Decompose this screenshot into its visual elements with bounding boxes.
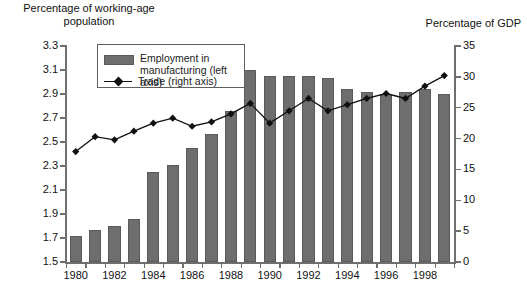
- trade-data-point-marker: [92, 133, 99, 140]
- bar: [147, 172, 159, 262]
- bar: [264, 76, 276, 262]
- left-axis-tick: [60, 213, 65, 214]
- legend-line-marker-icon: [104, 76, 132, 86]
- bar: [167, 165, 179, 262]
- left-axis-caption: Percentage of working-age population: [4, 2, 174, 28]
- bar: [361, 92, 373, 262]
- right-axis-tick: [456, 261, 461, 262]
- left-axis-tick-label: 2.5: [43, 135, 58, 147]
- bar: [89, 230, 101, 262]
- x-axis-tick: [260, 263, 261, 268]
- right-axis-tick-label: 5: [463, 224, 469, 236]
- trade-data-point-marker: [150, 120, 157, 127]
- x-axis-tick: [85, 263, 86, 268]
- left-axis-tick-label: 3.3: [43, 39, 58, 51]
- trade-data-point-marker: [72, 148, 79, 155]
- right-axis-tick-label: 15: [463, 162, 475, 174]
- x-axis-tick: [338, 263, 339, 268]
- right-axis-tick: [456, 169, 461, 170]
- left-axis-tick-label: 3.1: [43, 63, 58, 75]
- chart-legend: Employment in manufacturing (left axis) …: [97, 44, 245, 88]
- x-axis-tick: [435, 263, 436, 268]
- left-axis-tick: [60, 189, 65, 190]
- right-axis-tick-label: 20: [463, 132, 475, 144]
- right-axis-tick: [456, 107, 461, 108]
- x-axis-tick: [396, 263, 397, 268]
- x-axis-tick: [163, 263, 164, 268]
- bar: [419, 89, 431, 262]
- x-axis-tick: [357, 263, 358, 268]
- left-axis-tick: [60, 93, 65, 94]
- trade-data-point-marker: [189, 123, 196, 130]
- right-axis-tick: [456, 76, 461, 77]
- left-axis-tick: [60, 117, 65, 118]
- right-axis-tick-label: 10: [463, 193, 475, 205]
- left-axis-tick: [60, 165, 65, 166]
- left-axis-tick-label: 2.9: [43, 87, 58, 99]
- right-axis-caption: Percentage of GDP: [426, 17, 521, 30]
- right-axis-tick-label: 30: [463, 70, 475, 82]
- x-axis-tick: [299, 263, 300, 268]
- left-axis-tick-label: 1.7: [43, 231, 58, 243]
- x-axis-tick-label: 1998: [402, 269, 448, 281]
- left-axis-line: [65, 45, 67, 263]
- right-axis-tick: [456, 45, 461, 46]
- right-axis-tick-label: 35: [463, 39, 475, 51]
- bar: [322, 78, 334, 262]
- left-axis-tick-label: 2.7: [43, 111, 58, 123]
- x-axis-tick: [376, 263, 377, 268]
- legend-bar-swatch: [104, 55, 134, 65]
- x-axis-tick: [415, 263, 416, 268]
- right-axis-tick: [456, 230, 461, 231]
- bar: [225, 111, 237, 262]
- bar: [108, 226, 120, 262]
- bar: [380, 94, 392, 262]
- x-axis-tick: [144, 263, 145, 268]
- bar: [70, 236, 82, 262]
- x-axis-tick: [66, 263, 67, 268]
- x-axis-tick: [182, 263, 183, 268]
- trade-data-point-marker: [130, 128, 137, 135]
- left-axis-tick: [60, 141, 65, 142]
- trade-data-point-marker: [441, 72, 448, 79]
- x-axis-tick: [454, 263, 455, 268]
- x-axis-tick: [221, 263, 222, 268]
- left-axis-tick-label: 1.9: [43, 207, 58, 219]
- left-axis-tick-label: 2.1: [43, 183, 58, 195]
- trade-data-point-marker: [169, 115, 176, 122]
- chart-figure: Percentage of working-age population Per…: [0, 0, 527, 288]
- left-axis-tick: [60, 45, 65, 46]
- x-axis-tick: [124, 263, 125, 268]
- right-axis-tick: [456, 138, 461, 139]
- trade-data-point-marker: [111, 136, 118, 143]
- x-axis-tick: [202, 263, 203, 268]
- left-axis-tick: [60, 69, 65, 70]
- legend-entry-trade: Trade (right axis): [104, 75, 217, 87]
- x-axis-tick: [318, 263, 319, 268]
- trade-data-point-marker: [208, 118, 215, 125]
- left-axis-tick-label: 1.5: [43, 255, 58, 267]
- bar: [399, 92, 411, 262]
- left-axis-tick-label: 2.3: [43, 159, 58, 171]
- right-axis-tick: [456, 200, 461, 201]
- left-axis-tick: [60, 237, 65, 238]
- bar: [341, 89, 353, 262]
- bar: [283, 76, 295, 262]
- right-axis-tick-label: 25: [463, 101, 475, 113]
- bar: [438, 94, 450, 262]
- legend-line-label: Trade (right axis): [138, 75, 217, 87]
- bar: [302, 76, 314, 262]
- left-axis-tick: [60, 261, 65, 262]
- bar: [186, 148, 198, 262]
- right-axis-tick-label: 0: [463, 255, 469, 267]
- x-axis-tick: [279, 263, 280, 268]
- x-axis-tick: [105, 263, 106, 268]
- bar: [244, 70, 256, 262]
- x-axis-tick: [241, 263, 242, 268]
- bar: [128, 219, 140, 262]
- bar: [205, 134, 217, 262]
